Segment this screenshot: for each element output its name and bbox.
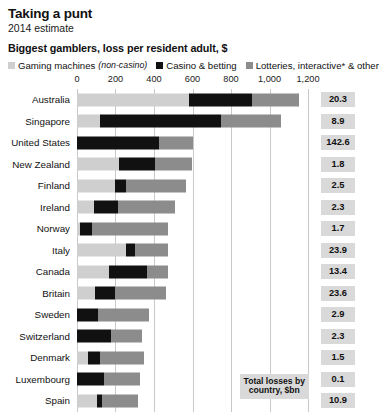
- bar-segment-casino-betting: [77, 330, 111, 343]
- x-tick-label: 800: [223, 74, 238, 84]
- x-tick-label: 200: [108, 74, 123, 84]
- bar-track: [77, 111, 308, 133]
- bar-row: Denmark1.5: [8, 347, 363, 369]
- plot-area: 02004006008001,0001,200 Australia20.3Sin…: [8, 74, 363, 412]
- bar-track: [77, 154, 308, 176]
- bar-track: [77, 175, 308, 197]
- bar-row: Sweden2.9: [8, 304, 363, 326]
- bar-segment-gaming-machines: [77, 287, 95, 300]
- bar-segment-lotteries-interactive-other: [159, 136, 193, 149]
- bar-segment-gaming-machines: [77, 265, 109, 278]
- page-title: Taking a punt: [8, 6, 363, 21]
- bar-row: Canada13.4: [8, 261, 363, 283]
- total-loss-cell: 142.6: [308, 135, 363, 150]
- legend-label-gaming-machines: Gaming machines: [18, 60, 95, 71]
- total-loss-cell: 1.5: [308, 350, 363, 365]
- total-loss-value: 1.5: [321, 350, 355, 365]
- stacked-bar: [77, 93, 299, 106]
- total-loss-cell: 13.4: [308, 264, 363, 279]
- bar-segment-lotteries-interactive-other: [221, 115, 281, 128]
- chart-title: Biggest gamblers, loss per resident adul…: [8, 42, 363, 55]
- bar-segment-gaming-machines: [77, 179, 115, 192]
- bar-row: Italy23.9: [8, 240, 363, 262]
- bar-track: [77, 240, 308, 262]
- country-label: Canada: [8, 266, 77, 277]
- legend-note-gaming-machines: (non-casino): [98, 60, 147, 71]
- bar-segment-gaming-machines: [77, 351, 88, 364]
- annotation-line-2: country, $bn: [244, 386, 305, 396]
- stacked-bar: [77, 244, 168, 257]
- bar-row: Singapore8.9: [8, 111, 363, 133]
- stacked-bar: [77, 179, 186, 192]
- bar-segment-gaming-machines: [77, 244, 126, 257]
- country-label: Britain: [8, 288, 77, 299]
- bar-row: Ireland2.3: [8, 197, 363, 219]
- total-loss-cell: 2.9: [308, 307, 363, 322]
- legend-label-casino-betting: Casino & betting: [166, 60, 236, 71]
- total-losses-annotation: Total losses by country, $bn: [240, 374, 309, 399]
- stacked-bar: [77, 308, 149, 321]
- stacked-bar: [77, 394, 138, 407]
- country-label: Norway: [8, 223, 77, 234]
- country-label: New Zealand: [8, 159, 77, 170]
- legend-item-lotteries-interactive-other: Lotteries, interactive* & other: [246, 60, 379, 71]
- bar-segment-gaming-machines: [77, 115, 100, 128]
- bar-segment-casino-betting: [95, 287, 115, 300]
- country-label: Switzerland: [8, 331, 77, 342]
- bar-row: Australia20.3: [8, 89, 363, 111]
- page-subtitle: 2014 estimate: [8, 22, 363, 35]
- bar-segment-casino-betting: [77, 136, 159, 149]
- bar-track: [77, 304, 308, 326]
- bar-track: [77, 132, 308, 154]
- bar-segment-lotteries-interactive-other: [104, 373, 140, 386]
- legend-swatch-lotteries-interactive-other: [246, 62, 253, 69]
- x-tick-label: 400: [146, 74, 161, 84]
- country-label: Denmark: [8, 352, 77, 363]
- total-loss-cell: 20.3: [308, 92, 363, 107]
- chart-legend: Gaming machines (non-casino)Casino & bet…: [8, 60, 363, 71]
- bar-row: Spain10.9: [8, 390, 363, 412]
- country-label: Finland: [8, 180, 77, 191]
- bar-row: United States142.6: [8, 132, 363, 154]
- bar-segment-gaming-machines: [77, 394, 97, 407]
- legend-item-casino-betting: Casino & betting: [156, 60, 236, 71]
- bar-segment-lotteries-interactive-other: [100, 351, 144, 364]
- stacked-bar: [77, 265, 168, 278]
- x-tick-label: 1,200: [297, 74, 320, 84]
- bar-segment-gaming-machines: [77, 201, 94, 214]
- total-loss-cell: 23.9: [308, 243, 363, 258]
- stacked-bar: [77, 115, 281, 128]
- bar-segment-casino-betting: [189, 93, 253, 106]
- total-loss-value: 1.7: [321, 221, 355, 236]
- stacked-bar: [77, 158, 193, 171]
- bar-track: [77, 261, 308, 283]
- country-label: Australia: [8, 94, 77, 105]
- bar-row: New Zealand1.8: [8, 154, 363, 176]
- bar-segment-lotteries-interactive-other: [155, 158, 193, 171]
- bar-row: Switzerland2.3: [8, 326, 363, 348]
- bar-segment-lotteries-interactive-other: [252, 93, 299, 106]
- bar-segment-lotteries-interactive-other: [115, 287, 165, 300]
- bar-segment-casino-betting: [80, 222, 93, 235]
- total-loss-value: 20.3: [321, 92, 355, 107]
- total-loss-value: 142.6: [321, 135, 355, 150]
- total-loss-value: 2.3: [321, 200, 355, 215]
- bar-segment-lotteries-interactive-other: [98, 308, 149, 321]
- bar-segment-casino-betting: [119, 158, 155, 171]
- total-loss-cell: 2.3: [308, 200, 363, 215]
- bar-segment-lotteries-interactive-other: [147, 265, 168, 278]
- bar-segment-lotteries-interactive-other: [126, 179, 186, 192]
- bar-segment-casino-betting: [100, 115, 221, 128]
- bar-row: Britain23.6: [8, 283, 363, 305]
- bar-segment-lotteries-interactive-other: [102, 394, 138, 407]
- total-loss-cell: 2.3: [308, 329, 363, 344]
- stacked-bar: [77, 222, 168, 235]
- bar-row: Norway1.7: [8, 218, 363, 240]
- bar-segment-casino-betting: [115, 179, 126, 192]
- total-loss-value: 2.5: [321, 178, 355, 193]
- total-loss-value: 1.8: [321, 157, 355, 172]
- total-loss-cell: 0.1: [308, 372, 363, 387]
- x-tick-label: 1,000: [258, 74, 281, 84]
- country-label: United States: [8, 137, 77, 148]
